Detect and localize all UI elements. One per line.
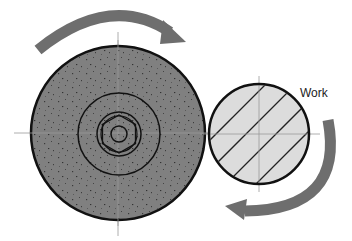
grinding-wheel xyxy=(14,40,222,226)
wheel-rotation-arrow xyxy=(38,16,186,50)
grinding-diagram xyxy=(0,0,352,241)
work-label: Work xyxy=(300,86,328,100)
